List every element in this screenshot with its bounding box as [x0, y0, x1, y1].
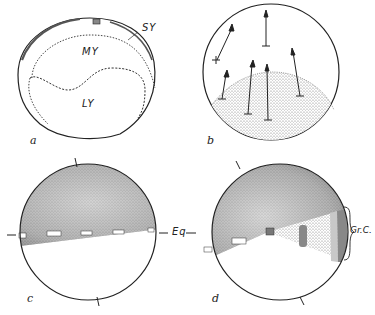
panel-b-sphere — [203, 4, 339, 140]
panel-a-egg — [18, 18, 155, 139]
panel-a-letter: a — [30, 134, 37, 147]
panel-d-letter: d — [212, 292, 219, 305]
label-sy: SY — [142, 22, 156, 33]
panel-c-sphere — [0, 150, 200, 306]
label-my: MY — [82, 46, 99, 57]
label-ly: LY — [82, 98, 95, 109]
panel-d-sphere — [186, 150, 360, 305]
panel-c-letter: c — [27, 292, 33, 305]
figure-canvas — [0, 0, 375, 315]
panel-b-letter: b — [207, 134, 214, 147]
label-grc: Gr.C. — [350, 225, 372, 235]
label-eq: Eq — [172, 226, 187, 237]
